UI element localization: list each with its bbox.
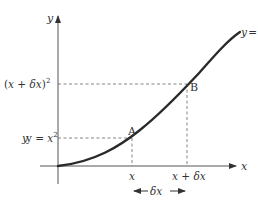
x-tick-low: x [129, 170, 135, 182]
point-a-label: A [127, 125, 137, 138]
equals: y = [26, 132, 47, 144]
y-axis-label: y [46, 12, 54, 25]
diagram-canvas: y x yy = A B x x δx [0, 0, 258, 202]
curve-x-squared [58, 32, 240, 166]
point-b-label: B [190, 81, 198, 94]
exponent: 2 [53, 131, 57, 139]
delta-x-label: δx [150, 185, 162, 197]
y-tick-low-label: yy = x2 [22, 131, 58, 144]
dashed-guides [58, 84, 187, 166]
x-tick-high-label: x + δx [172, 170, 206, 182]
y-tick-high-label: (x + δx)2 [4, 77, 50, 90]
curve-equation-label: y = x2 [241, 25, 258, 38]
x-axis-label: x [241, 160, 248, 173]
delta-x-indicator: δx [134, 185, 185, 197]
